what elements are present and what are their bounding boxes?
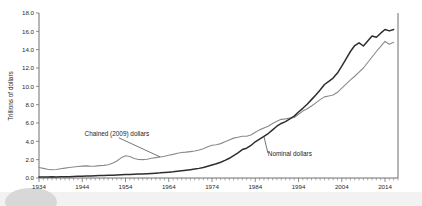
gdp-line-chart: 0.02.04.06.08.010.012.014.016.018.0 1934… [0,0,422,206]
x-tick-label: 1964 [162,183,176,190]
y-tick-label: 8.0 [25,101,34,108]
y-axis-ticks: 0.02.04.06.08.010.012.014.016.018.0 [22,9,39,181]
x-tick-label: 1944 [75,183,89,190]
x-tick-label: 1984 [248,183,262,190]
series-nominal-dollars [39,30,394,178]
plot-frame [39,13,398,178]
y-axis-title: Trillions of dollars [7,71,14,120]
nominal-dollars-label: Nominal dollars [268,150,312,157]
series-chained-2009-dollars [39,41,394,169]
chart-screenshot: 0.02.04.06.08.010.012.014.016.018.0 1934… [0,0,422,206]
plot-frame-path [39,13,398,178]
chained-dollars-leader [119,138,160,157]
y-tick-label: 6.0 [25,119,34,126]
chained-dollars-label: Chained (2009) dollars [85,130,150,138]
y-tick-label: 14.0 [22,46,35,53]
chart-annotations: Chained (2009) dollarsNominal dollars [85,130,312,157]
x-tick-label: 1994 [292,183,306,190]
x-tick-label: 1934 [32,183,46,190]
y-tick-label: 18.0 [22,9,35,16]
x-tick-label: 1954 [119,183,133,190]
y-tick-label: 16.0 [22,28,35,35]
series-lines [39,30,394,178]
y-tick-label: 2.0 [25,156,34,163]
y-tick-label: 4.0 [25,138,34,145]
x-axis-ticks: 193419441954196419741984199420042014 [32,178,398,190]
x-tick-label: 2014 [378,183,392,190]
y-tick-label: 10.0 [22,83,35,90]
x-tick-label: 2004 [335,183,349,190]
y-tick-label: 12.0 [22,64,35,71]
y-tick-label: 0.0 [25,174,34,181]
x-tick-label: 1974 [205,183,219,190]
nominal-dollars-leader [264,136,268,153]
